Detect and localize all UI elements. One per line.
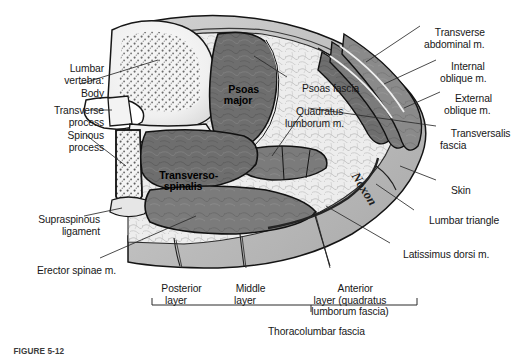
label-quadratus-lumborum: Quadratus lumborum m. — [285, 95, 344, 141]
transverse-process — [108, 96, 132, 126]
vertebral-body-trabeculae — [119, 31, 200, 112]
leader-transverse-abdominal — [366, 26, 420, 62]
label-posterior-layer: Posterior layer — [140, 272, 212, 318]
label-spinous-process: Spinous process — [0, 119, 104, 165]
label-erector-spinae: Erector spinae m. — [0, 254, 116, 288]
label-thoracolumbar-fascia: Thoracolumbar fascia — [225, 315, 397, 349]
label-transverso-spinalis: Transverso- spinalis — [143, 158, 223, 204]
label-psoas-major: Psoas major — [210, 72, 266, 118]
figure-caption: FIGURE 5-12 — [4, 338, 64, 358]
label-lumbar-triangle: Lumbar triangle — [418, 204, 499, 238]
spinous-process — [116, 130, 142, 206]
label-latissimus-dorsi: Latissimus dorsi m. — [392, 238, 489, 272]
illustration-body — [80, 15, 440, 312]
label-supraspinous-ligament: Supraspinous ligament — [0, 203, 100, 249]
label-transversalis-fascia: Transversalis fascia — [440, 117, 510, 163]
label-middle-layer: Middle layer — [212, 272, 278, 318]
